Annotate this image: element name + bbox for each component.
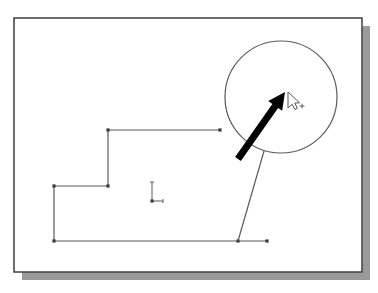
vertex-marker[interactable] [52,184,55,187]
vertex-marker[interactable] [265,239,268,242]
vertex-marker[interactable] [218,128,221,131]
cad-application-window [0,0,378,293]
vertex-marker[interactable] [106,128,109,131]
vertex-marker[interactable] [106,184,109,187]
origin-point [150,199,153,202]
vertex-marker[interactable] [52,239,55,242]
drawing-canvas[interactable] [0,0,378,293]
